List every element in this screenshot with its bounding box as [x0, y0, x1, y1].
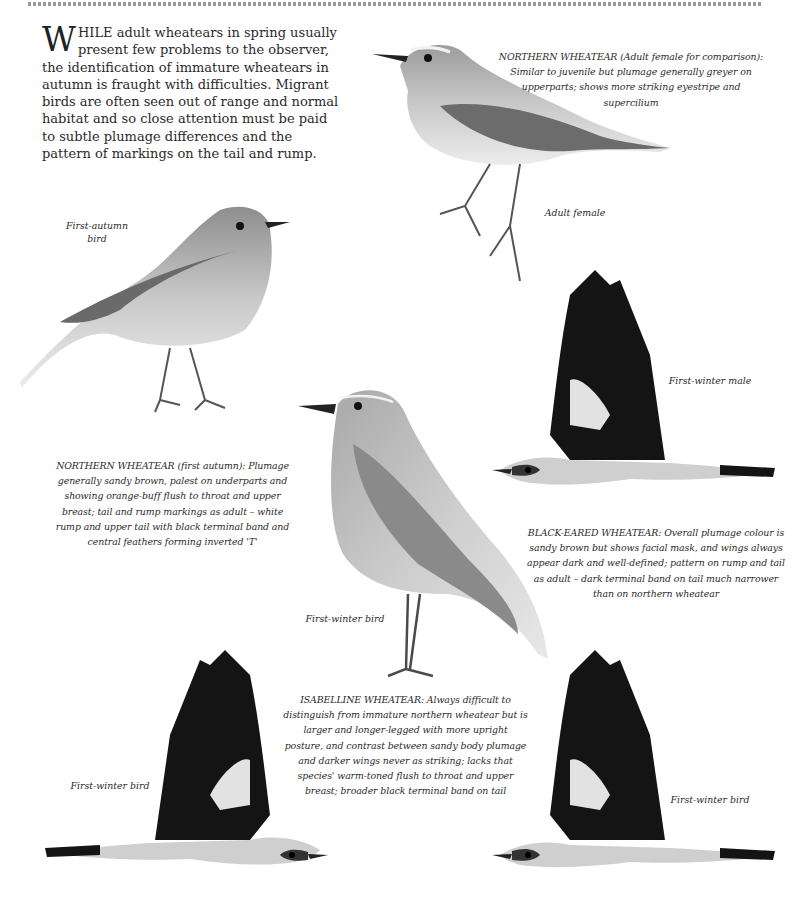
bird-illustration-first-winter-left [40, 645, 330, 870]
label-first-winter-bird-center: First-winter bird [305, 612, 385, 625]
intro-text: adult wheatears in spring usually presen… [42, 25, 338, 161]
caption-black-eared: BLACK-EARED WHEATEAR: Overall plumage co… [525, 525, 787, 601]
caption-northern-adult-female: NORTHERN WHEATEAR (Adult female for comp… [495, 49, 767, 110]
drop-cap: W [42, 26, 76, 54]
label-first-winter-bird-left: First-winter bird [70, 779, 150, 792]
label-first-winter-male: First-winter male [665, 374, 755, 387]
label-first-autumn-bird: First-autumn bird [58, 219, 136, 245]
dotted-top-rule [28, 2, 763, 6]
bird-illustration-isabelline-first-winter [298, 384, 558, 684]
label-adult-female: Adult female [540, 206, 610, 219]
caption-northern-first-autumn: NORTHERN WHEATEAR (first autumn): Plumag… [55, 458, 290, 549]
intro-small-caps: HILE [78, 25, 113, 40]
bird-illustration-first-winter-right [490, 645, 780, 870]
intro-paragraph: WHILE adult wheatears in spring usually … [42, 24, 342, 162]
label-first-winter-bird-right: First-winter bird [670, 793, 750, 806]
